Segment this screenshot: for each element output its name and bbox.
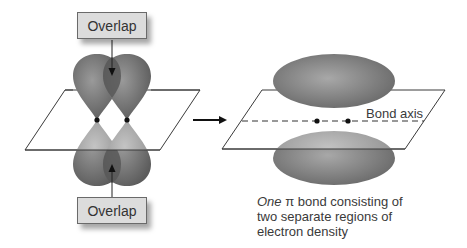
right-nucleus-dot — [124, 117, 129, 122]
overlap-top-text: Overlap — [87, 18, 136, 34]
overlap-bottom-text: Overlap — [87, 203, 136, 219]
overlap-label-top: Overlap — [77, 12, 147, 39]
right-left-nucleus-dot — [314, 118, 319, 123]
lower-electron-density — [273, 131, 395, 185]
pi-symbol: π — [285, 194, 294, 209]
right-right-nucleus-dot — [345, 118, 350, 123]
overlap-label-bottom: Overlap — [77, 197, 147, 224]
left-nucleus-dot — [94, 117, 99, 122]
caption-emphasis: One — [257, 194, 282, 209]
bond-axis-label: Bond axis — [366, 106, 423, 121]
pi-bond-caption: One π bond consisting of two separate re… — [257, 194, 457, 239]
caption-line-1-rest: bond consisting of — [294, 194, 402, 209]
upper-electron-density — [273, 54, 395, 108]
caption-line-3: electron density — [257, 224, 457, 239]
caption-line-2: two separate regions of — [257, 209, 457, 224]
caption-line-1: One π bond consisting of — [257, 194, 457, 209]
transition-arrow-icon — [193, 116, 227, 124]
